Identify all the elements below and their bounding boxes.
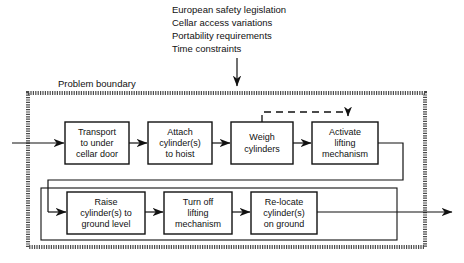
feedback-dashed-connector	[262, 112, 348, 122]
box-activate: Activate lifting mechanism	[312, 122, 378, 164]
external-line-4: Time constraints	[172, 43, 242, 54]
box-turnoff-line-1: Turn off	[183, 197, 214, 207]
box-relocate-line-3: on ground	[264, 219, 305, 229]
boundary-label: Problem boundary	[58, 78, 136, 89]
box-relocate-line-2: cylinder(s)	[263, 208, 305, 218]
box-transport-line-2: to under	[80, 138, 113, 148]
external-influences-text: European safety legislation Cellar acces…	[172, 4, 286, 54]
box-weigh-rect	[231, 122, 293, 164]
box-transport-line-3: cellar door	[76, 149, 118, 159]
process-flow-diagram: European safety legislation Cellar acces…	[0, 0, 464, 263]
external-line-1: European safety legislation	[172, 4, 286, 15]
box-transport: Transport to under cellar door	[65, 122, 129, 164]
diagram-canvas: European safety legislation Cellar acces…	[0, 0, 464, 263]
box-relocate: Re-locate cylinder(s) on ground	[251, 192, 317, 234]
box-turnoff: Turn off lifting mechanism	[164, 192, 232, 234]
box-relocate-line-1: Re-locate	[265, 197, 304, 207]
box-attach-line-2: cylinder(s)	[159, 138, 201, 148]
box-attach-line-3: to hoist	[165, 149, 195, 159]
box-raise-line-3: ground level	[81, 219, 130, 229]
box-raise-line-2: cylinder(s) to	[80, 208, 132, 218]
box-attach: Attach cylinder(s) to hoist	[148, 122, 212, 164]
external-line-2: Cellar access variations	[172, 17, 273, 28]
box-activate-line-3: mechanism	[322, 149, 368, 159]
external-line-3: Portability requirements	[172, 30, 272, 41]
box-raise-line-1: Raise	[94, 197, 117, 207]
box-raise: Raise cylinder(s) to ground level	[67, 192, 145, 234]
box-attach-line-1: Attach	[167, 127, 193, 137]
box-activate-line-2: lifting	[334, 138, 355, 148]
box-activate-line-1: Activate	[329, 127, 361, 137]
box-turnoff-line-2: lifting	[187, 208, 208, 218]
box-turnoff-line-3: mechanism	[175, 219, 221, 229]
box-transport-line-1: Transport	[78, 127, 117, 137]
box-weigh: Weigh cylinders	[231, 122, 293, 164]
box-weigh-line-1: Weigh	[249, 132, 274, 142]
box-weigh-line-2: cylinders	[244, 144, 280, 154]
